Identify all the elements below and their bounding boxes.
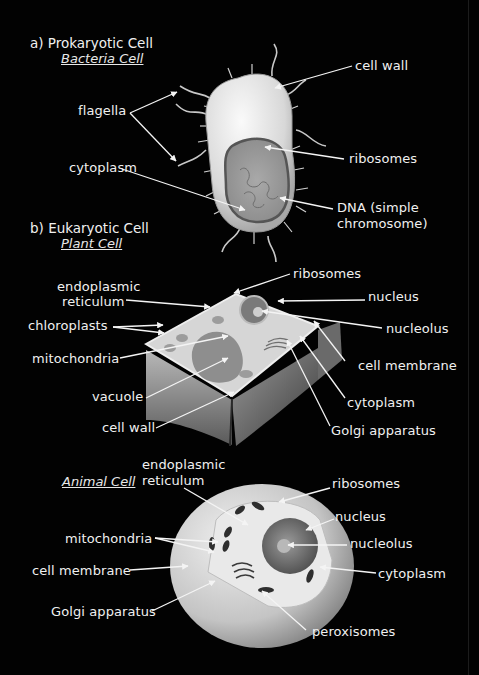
plant-cell-illustration	[146, 294, 342, 446]
prokaryotic-heading: a) Prokaryotic Cell	[30, 35, 153, 52]
label-dna-line2: chromosome)	[337, 216, 428, 232]
label-ribosomes-animal: ribosomes	[332, 476, 400, 492]
label-dna-line1: DNA (simple	[337, 200, 419, 216]
label-nucleolus-animal: nucleolus	[350, 536, 413, 552]
label-nucleus-plant: nucleus	[368, 289, 419, 305]
label-nucleus-animal: nucleus	[335, 509, 386, 525]
bacteria-cell-subheading: Bacteria Cell	[61, 51, 143, 66]
label-mitochondria-animal: mitochondria	[65, 531, 152, 547]
label-cell-wall-plant: cell wall	[102, 420, 155, 436]
label-mitochondria-plant: mitochondria	[32, 351, 119, 367]
label-peroxisomes: peroxisomes	[312, 624, 395, 640]
label-cytoplasm-bacteria: cytoplasm	[69, 160, 137, 176]
label-cytoplasm-plant: cytoplasm	[347, 395, 415, 411]
label-cytoplasm-animal: cytoplasm	[378, 566, 446, 582]
label-cell-membrane-animal: cell membrane	[32, 563, 131, 579]
label-vacuole: vacuole	[92, 389, 143, 405]
diagram-canvas: a) Prokaryotic Cell Bacteria Cell flagel…	[0, 0, 479, 675]
label-golgi-animal: Golgi apparatus	[51, 604, 156, 620]
label-cell-wall-bacteria: cell wall	[355, 58, 408, 74]
label-ribosomes-plant: ribosomes	[293, 266, 361, 282]
label-flagella: flagella	[78, 103, 126, 119]
label-chloroplasts: chloroplasts	[28, 318, 108, 334]
animal-cell-subheading: Animal Cell	[62, 474, 135, 489]
label-er-plant-line1: endoplasmic	[57, 279, 141, 295]
plant-cell-subheading: Plant Cell	[61, 236, 122, 251]
label-er-plant-line2: reticulum	[62, 294, 125, 310]
label-nucleolus-plant: nucleolus	[386, 321, 449, 337]
label-er-animal-line1: endoplasmic	[142, 457, 226, 473]
eukaryotic-heading: b) Eukaryotic Cell	[30, 220, 149, 237]
label-cell-membrane-plant: cell membrane	[358, 358, 457, 374]
label-golgi-plant: Golgi apparatus	[331, 423, 436, 439]
label-er-animal-line2: reticulum	[142, 473, 205, 489]
label-ribosomes-bacteria: ribosomes	[349, 151, 417, 167]
